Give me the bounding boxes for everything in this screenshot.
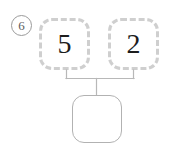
number-bond-worksheet-item: 6 5 2: [0, 0, 169, 158]
problem-number-badge: 6: [11, 15, 32, 36]
number-bond-part-left-value: 5: [58, 30, 72, 58]
number-bond-part-left[interactable]: 5: [39, 18, 90, 70]
number-bond-part-right-value: 2: [127, 30, 141, 58]
number-bond-part-right[interactable]: 2: [108, 18, 159, 70]
number-bond-whole-answer-box[interactable]: [72, 95, 122, 143]
problem-number-label: 6: [18, 19, 25, 32]
